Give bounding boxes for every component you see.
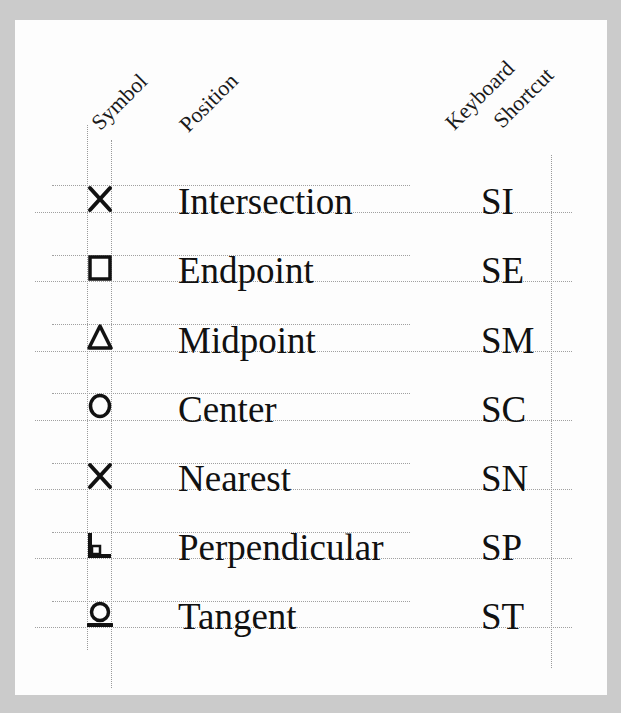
- tangent-icon: [87, 600, 113, 628]
- position-label: Nearest: [178, 460, 291, 497]
- perpendicular-icon: [87, 531, 113, 559]
- position-label: Intersection: [178, 183, 353, 220]
- shortcut-column-rule: [551, 155, 552, 668]
- shortcut-label: ST: [481, 598, 524, 635]
- shortcut-label: SP: [481, 529, 522, 566]
- x-icon: [87, 185, 113, 213]
- circle-icon: [87, 392, 113, 420]
- shortcut-label: SM: [481, 322, 534, 359]
- position-label: Endpoint: [178, 252, 314, 289]
- header-symbol: Symbol: [87, 70, 151, 134]
- shortcut-label: SI: [481, 183, 514, 220]
- position-label: Perpendicular: [178, 529, 383, 566]
- header-position: Position: [175, 69, 242, 136]
- snap-reference-table: Symbol Position Keyboard Shortcut Inters…: [15, 20, 607, 695]
- position-label: Center: [178, 391, 277, 428]
- shortcut-label: SE: [481, 252, 524, 289]
- position-label: Midpoint: [178, 322, 316, 359]
- shortcut-label: SC: [481, 391, 526, 428]
- x-icon: [87, 462, 113, 490]
- position-label: Tangent: [178, 598, 297, 635]
- triangle-icon: [87, 323, 113, 351]
- square-icon: [87, 254, 113, 282]
- shortcut-label: SN: [481, 460, 528, 497]
